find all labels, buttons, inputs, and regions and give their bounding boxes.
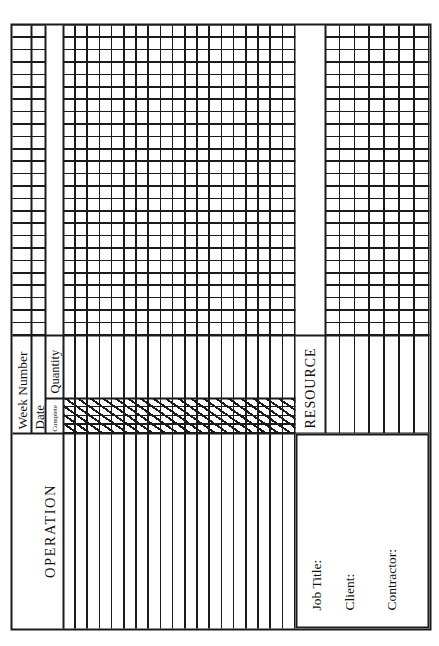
- date-label: Date: [32, 404, 45, 429]
- contractor-label: Contractor:: [384, 549, 399, 610]
- date-header-cell: Date: [31, 335, 45, 433]
- week-number-label: Week Number: [15, 351, 29, 429]
- job-title-label: Job Title:: [309, 559, 324, 610]
- operation-row-lines: [63, 25, 295, 628]
- rotated-sheet: OPERATION Week Number Date Complete Quan…: [0, 0, 439, 646]
- week-grid-header-columns: [12, 25, 45, 335]
- complete-header-cell: Complete: [45, 398, 63, 433]
- title-block: Job Title: Client: Contractor:: [295, 433, 429, 628]
- resource-row-lines: [325, 25, 429, 433]
- header-rows-divider: [62, 25, 64, 628]
- programme-chart-form: OPERATION Week Number Date Complete Quan…: [10, 23, 431, 630]
- complete-label: Complete: [51, 405, 58, 431]
- resource-band-divider: [324, 25, 326, 433]
- operation-label: OPERATION: [42, 483, 57, 577]
- quantity-label: Quantity: [48, 349, 61, 393]
- resource-label: RESOURCE: [303, 347, 317, 428]
- week-number-header-cell: Week Number: [12, 335, 31, 433]
- quantity-header-cell: Quantity: [45, 335, 63, 398]
- resource-section-header-cell: RESOURCE: [295, 335, 325, 433]
- complete-quantity-divider: [45, 397, 295, 399]
- scanned-page: OPERATION Week Number Date Complete Quan…: [0, 0, 439, 646]
- weeknumber-date-divider: [30, 25, 32, 433]
- label-grid-divider: [12, 334, 429, 336]
- date-row-divider: [44, 25, 46, 433]
- operation-header-cell: OPERATION: [12, 433, 63, 628]
- client-label: Client:: [342, 573, 357, 610]
